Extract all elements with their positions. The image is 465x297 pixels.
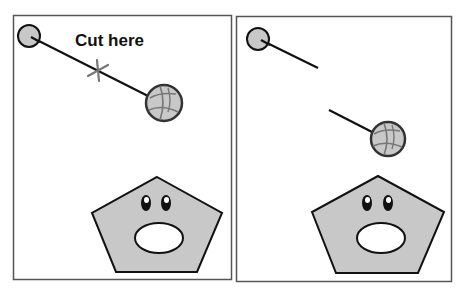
swinging-ball-icon (146, 85, 182, 121)
left-eye-icon (362, 195, 372, 211)
right-eye-icon (383, 195, 393, 211)
anchor-ball-icon (247, 28, 269, 50)
panel-after (237, 17, 452, 282)
left-eye-icon (141, 195, 151, 211)
mouth-icon (135, 223, 183, 253)
mouth-icon (357, 223, 405, 253)
comic-diagram: Cut here (0, 0, 465, 297)
anchor-ball-icon (18, 25, 40, 47)
right-eye-icon (161, 195, 171, 211)
cut-here-label: Cut here (75, 31, 144, 50)
falling-ball-icon (371, 122, 405, 156)
panel-before: Cut here (14, 16, 232, 280)
